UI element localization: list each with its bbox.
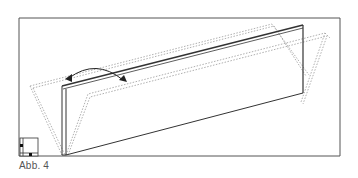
figure-caption: Abb. 4 <box>19 160 49 171</box>
outer-frame <box>19 18 340 156</box>
figure-abb-4: Abb. 4 <box>0 0 358 178</box>
view-orientation-icon <box>20 138 38 156</box>
diagram-canvas <box>0 0 358 178</box>
tilted-panel-outline-back <box>30 24 309 155</box>
panel <box>62 25 303 155</box>
